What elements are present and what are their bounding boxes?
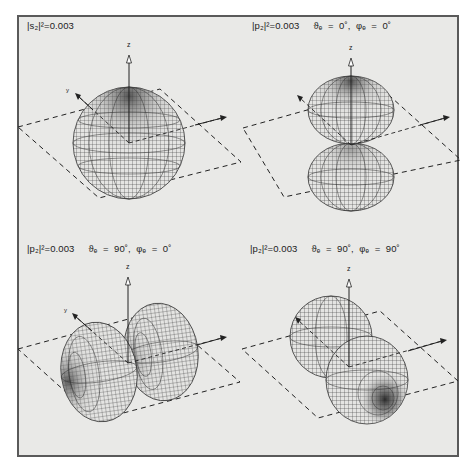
x-arrowhead-icon bbox=[220, 335, 227, 341]
z-arrowhead-icon bbox=[126, 277, 131, 285]
panel-px-label: |p₂|²=0.003ϑₑ = 90˚, φₑ = 0˚ bbox=[27, 243, 171, 254]
y-arrowhead-icon bbox=[72, 313, 78, 320]
z-axis-label: z bbox=[347, 265, 351, 272]
py-front-lobe bbox=[326, 336, 408, 424]
angle-label: ϑₑ = 90˚, φₑ = 0˚ bbox=[89, 243, 172, 254]
z-axis-label: z bbox=[349, 44, 353, 51]
y-arrowhead-icon bbox=[75, 93, 81, 100]
panel-s-label: |s₂|²=0.003 bbox=[27, 20, 74, 31]
y-axis-label: y bbox=[66, 87, 69, 93]
panel-s: z y bbox=[18, 41, 241, 199]
z-axis-label: z bbox=[127, 41, 131, 48]
x-arrowhead-icon bbox=[443, 115, 450, 121]
probability-label: |p₂|²=0.003 bbox=[252, 20, 300, 31]
probability-label: |p₂|²=0.003 bbox=[250, 243, 298, 254]
x-arrowhead-icon bbox=[440, 338, 447, 344]
pz-lower-lobe bbox=[308, 143, 394, 211]
z-arrowhead-icon bbox=[347, 279, 352, 287]
x-arrowhead-icon bbox=[220, 115, 227, 121]
z-arrowhead-icon bbox=[127, 55, 132, 63]
orbital-figure: z y bbox=[0, 0, 471, 474]
angle-label: ϑₑ = 90˚, φₑ = 90˚ bbox=[312, 243, 400, 254]
panel-py-label: |p₂|²=0.003ϑₑ = 90˚, φₑ = 90˚ bbox=[250, 243, 400, 254]
z-axis-label: z bbox=[126, 263, 130, 270]
panel-pz-label: |p₂|²=0.003ϑₑ = 0˚, φₑ = 0˚ bbox=[252, 20, 391, 31]
angle-label: ϑₑ = 0˚, φₑ = 0˚ bbox=[314, 20, 392, 31]
probability-label: |s₂|²=0.003 bbox=[27, 20, 74, 31]
probability-label: |p₂|²=0.003 bbox=[27, 243, 75, 254]
z-arrowhead-icon bbox=[349, 58, 354, 66]
y-axis-label: y bbox=[64, 307, 67, 313]
panel-pz: z bbox=[243, 44, 461, 211]
y-arrowhead-icon bbox=[297, 95, 303, 102]
panel-py: z bbox=[242, 265, 458, 424]
panel-px: z y bbox=[18, 263, 240, 427]
orbital-plots: z y bbox=[0, 0, 471, 474]
